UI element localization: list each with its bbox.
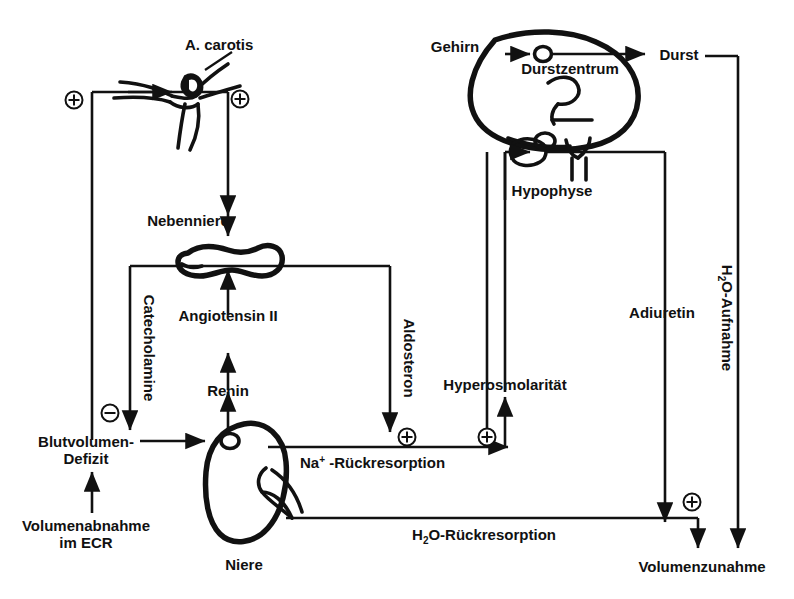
carotid-artery-illustration — [114, 52, 240, 150]
label-renin: Renin — [207, 382, 249, 399]
na-suffix: -Rückresorption — [325, 454, 445, 471]
label-nebenniere: Nebenniere — [147, 212, 229, 229]
label-hyperosmolaritaet: Hyperosmolarität — [443, 376, 566, 393]
adrenal-gland-illustration — [178, 246, 282, 276]
label-blutvolumen-defizit-line2: Defizit — [64, 450, 109, 467]
label-niere: Niere — [225, 556, 263, 573]
label-volumenzunahme: Volumenzunahme — [638, 558, 765, 575]
na-prefix: Na — [300, 454, 320, 471]
label-hypophyse: Hypophyse — [512, 182, 593, 199]
label-blutvolumen-defizit-line1: Blutvolumen- — [38, 433, 134, 450]
minus-sign-blutvolumen — [102, 405, 119, 422]
label-volumenabnahme-line2: im ECR — [59, 534, 113, 551]
plus-sign-na-aldosteron — [399, 429, 416, 446]
physiology-flow-diagram: A. carotis Nebenniere — [0, 0, 794, 599]
h2o-rueck-suffix: O-Rückresorption — [428, 526, 556, 543]
plus-sign-adiuretin — [684, 494, 701, 511]
label-gehirn: Gehirn — [431, 38, 479, 55]
label-angiotensin-ii: Angiotensin II — [178, 307, 277, 324]
h2o-aufnahme-suffix: O-Aufnahme — [719, 281, 736, 371]
plus-sign-carotid-right — [232, 91, 249, 108]
aldosteron-path — [180, 266, 390, 432]
kidney-illustration — [206, 423, 302, 541]
diagram-page: A. carotis Nebenniere — [0, 0, 794, 599]
label-volumenabnahme-line1: Volumenabnahme — [22, 517, 150, 534]
h2o-aufnahme-prefix: H — [719, 265, 736, 276]
plus-sign-carotid-left — [66, 92, 83, 109]
label-durst: Durst — [659, 46, 698, 63]
h2o-rueck-prefix: H — [412, 526, 423, 543]
label-a-carotis: A. carotis — [185, 36, 253, 53]
label-adiuretin: Adiuretin — [629, 304, 695, 321]
label-durstzentrum: Durstzentrum — [521, 60, 619, 77]
label-catecholamine: Catecholamine — [141, 295, 158, 402]
label-na-rueckresorption: Na+ -Rückresorption — [300, 454, 445, 471]
hypophyse-adiuretin-path — [505, 152, 665, 522]
label-aldosteron: Aldosteron — [401, 318, 418, 397]
label-h2o-rueckresorption: H2O-Rückresorption — [412, 526, 556, 546]
plus-sign-na-right — [479, 429, 496, 446]
label-h2o-aufnahme: H2O-Aufnahme — [716, 265, 736, 371]
